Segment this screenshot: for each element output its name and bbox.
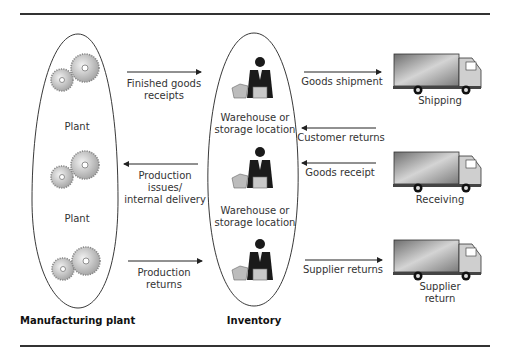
flow-label-goods-receipt: Goods receipt: [298, 167, 382, 179]
truck-label-receiving: Receiving: [400, 194, 480, 206]
flow-label-line: Production: [120, 170, 210, 182]
flow-label-finished-goods-receipts: Finished goods receipts: [122, 78, 206, 102]
flow-label-production-returns: Production returns: [122, 267, 206, 291]
truck-label-line: Supplier: [400, 281, 480, 293]
flow-label-customer-returns: Customer returns: [296, 132, 386, 144]
gear-icon: [52, 247, 100, 280]
plant-label: Plant: [55, 121, 99, 133]
warehouse-label: Warehouse or storage location: [208, 112, 302, 136]
warehouse-label-line: Warehouse or: [208, 205, 302, 217]
gear-icon: [51, 54, 99, 91]
flow-label-line: Production: [122, 267, 206, 279]
truck-icon: [393, 54, 481, 95]
truck-icon: [393, 152, 481, 193]
warehouse-label-line: storage location: [208, 217, 302, 229]
flow-label-supplier-returns: Supplier returns: [298, 264, 388, 276]
flow-label-line: issues/: [120, 182, 210, 194]
truck-label-shipping: Shipping: [400, 95, 480, 107]
person-at-desk-icon: [232, 57, 273, 98]
person-at-desk-icon: [232, 147, 273, 188]
warehouse-label-line: Warehouse or: [208, 112, 302, 124]
warehouse-label-line: storage location: [208, 124, 302, 136]
truck-icon: [393, 240, 481, 281]
group-title-manufacturing-plant: Manufacturing plant: [20, 315, 132, 327]
flow-label-line: returns: [122, 279, 206, 291]
person-at-desk-icon: [232, 239, 273, 280]
flow-label-line: internal delivery: [120, 194, 210, 206]
flow-label-line: receipts: [122, 90, 206, 102]
truck-label-supplier-return: Supplier return: [400, 281, 480, 305]
flow-label-production-issues: Production issues/ internal delivery: [120, 170, 210, 206]
flow-label-line: Finished goods: [122, 78, 206, 90]
gear-icon: [51, 151, 99, 188]
truck-label-line: return: [400, 293, 480, 305]
flow-label-goods-shipment: Goods shipment: [300, 76, 384, 88]
group-title-inventory: Inventory: [214, 315, 294, 327]
plant-label: Plant: [55, 213, 99, 225]
warehouse-label: Warehouse or storage location: [208, 205, 302, 229]
